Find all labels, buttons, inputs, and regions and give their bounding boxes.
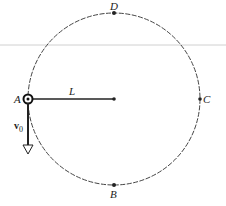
point-c-marker [198,97,202,101]
label-length: L [69,86,75,97]
point-b-marker [112,183,116,187]
label-b: B [110,189,117,200]
center-pivot [112,97,116,101]
velocity-arrowhead-icon [23,145,33,154]
label-velocity: v0 [14,121,23,134]
diagram-canvas [0,0,226,206]
label-c: C [203,94,210,105]
velocity-subscript: 0 [19,125,23,134]
label-a: A [14,94,21,105]
circular-motion-diagram: D B C A L v0 [0,0,226,206]
mass-ball-center [27,98,30,101]
label-d: D [110,1,118,12]
